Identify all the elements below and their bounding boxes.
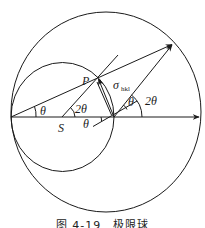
label-two-theta-right: 2θ [145, 94, 157, 108]
label-s: S [58, 121, 64, 135]
label-sigma: σ [113, 78, 120, 92]
label-theta-right: θ [128, 95, 134, 109]
label-p: P [81, 74, 90, 88]
label-theta-left: θ [40, 104, 46, 118]
theta-bottom-arc [101, 117, 102, 121]
diffracted-vector-arrow [114, 45, 172, 117]
label-sigma-sub: hkl [121, 85, 130, 93]
sigma-hkl-arrow [99, 79, 115, 117]
limiting-sphere-diagram: P S θ 2θ θ σ hkl θ 2θ [0, 0, 205, 228]
sigma-hkl-double-line [97, 82, 112, 115]
label-theta-bottom: θ [83, 117, 89, 131]
theta-left-arc [35, 107, 37, 118]
label-two-theta-s: 2θ [75, 102, 87, 116]
figure-caption: 图 4-19 极限球 [0, 216, 205, 228]
